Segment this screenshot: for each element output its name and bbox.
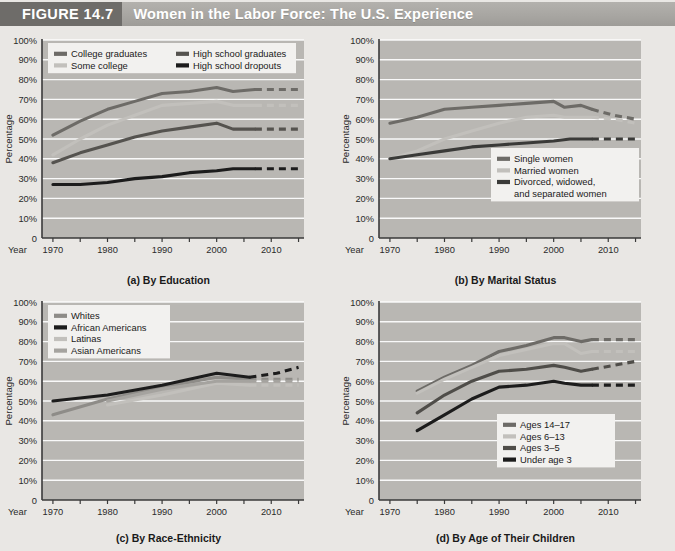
x-tick-label: 1990 — [489, 507, 510, 517]
chart-caption-b: (b) By Marital Status — [337, 274, 674, 286]
figure-title: Women in the Labor Force: The U.S. Exper… — [122, 6, 473, 22]
y-tick-label: 70% — [18, 95, 37, 105]
x-tick-label: 1980 — [97, 507, 118, 517]
legend-c: WhitesAfrican AmericansLatinasAsian Amer… — [48, 305, 170, 358]
y-tick-label: 60% — [355, 377, 374, 387]
x-tick-label: 2000 — [206, 507, 227, 517]
chart-caption-c: (c) By Race-Ethnicity — [0, 532, 337, 544]
y-tick-label: 30% — [18, 436, 37, 446]
y-tick-label: 50% — [355, 397, 374, 407]
y-tick-label: 80% — [355, 337, 374, 347]
legend-b: Single womenMarried womenDivorced, widow… — [491, 148, 639, 201]
legend-swatch — [497, 157, 510, 161]
legend-label: High school graduates — [193, 48, 287, 59]
legend-swatch — [54, 63, 67, 67]
y-tick-label: 50% — [18, 397, 37, 407]
legend-swatch — [54, 337, 67, 341]
legend-a: College graduatesHigh school graduatesSo… — [48, 43, 296, 73]
y-tick-label: 100% — [13, 36, 37, 46]
chart-panel-d: 100%90%80%70%60%50%40%30%20%10%019701980… — [337, 288, 674, 550]
y-tick-label: 100% — [13, 298, 37, 308]
figure-header: FIGURE 14.7 Women in the Labor Force: Th… — [0, 2, 675, 26]
legend-label: College graduates — [71, 48, 147, 59]
legend-swatch — [176, 52, 189, 56]
y-tick-label: 80% — [18, 337, 37, 347]
y-tick-label: 90% — [18, 317, 37, 327]
year-axis-label: Year — [8, 507, 27, 517]
chart-panel-b: 100%90%80%70%60%50%40%30%20%10%019701980… — [337, 26, 674, 288]
figure-panels: 100%90%80%70%60%50%40%30%20%10%019701980… — [0, 26, 675, 551]
x-tick-label: 1980 — [97, 245, 118, 255]
legend-swatch — [503, 434, 516, 438]
legend-swatch — [54, 349, 67, 353]
legend-label: Married women — [514, 165, 579, 176]
x-tick-label: 1970 — [380, 245, 401, 255]
x-tick-label: 2000 — [206, 245, 227, 255]
x-tick-label: 1990 — [152, 245, 173, 255]
chart-panel-c: 100%90%80%70%60%50%40%30%20%10%019701980… — [0, 288, 337, 550]
x-tick-label: 2010 — [598, 245, 619, 255]
x-tick-label: 1970 — [380, 507, 401, 517]
y-tick-label: 60% — [355, 115, 374, 125]
y-tick-label: 0 — [32, 496, 37, 506]
y-tick-label: 30% — [18, 174, 37, 184]
y-tick-label: 50% — [355, 135, 374, 145]
y-tick-label: 10% — [18, 214, 37, 224]
y-axis-title: Percentage — [3, 114, 14, 163]
y-tick-label: 10% — [355, 214, 374, 224]
legend-swatch — [503, 458, 516, 462]
y-tick-label: 50% — [18, 135, 37, 145]
x-tick-label: 2000 — [543, 245, 564, 255]
legend-label: Single women — [514, 153, 573, 164]
y-tick-label: 60% — [18, 377, 37, 387]
x-tick-label: 1990 — [489, 245, 510, 255]
legend-label: African Americans — [71, 322, 147, 333]
chart-svg-b: 100%90%80%70%60%50%40%30%20%10%019701980… — [337, 26, 674, 288]
y-tick-label: 60% — [18, 115, 37, 125]
legend-label: Latinas — [71, 333, 102, 344]
y-tick-label: 0 — [369, 496, 374, 506]
legend-label: Ages 14–17 — [520, 419, 570, 430]
chart-caption-a: (a) By Education — [0, 274, 337, 286]
year-axis-label: Year — [345, 245, 364, 255]
year-axis-label: Year — [345, 507, 364, 517]
y-axis-title: Percentage — [340, 114, 351, 163]
legend-d: Ages 14–17Ages 6–13Ages 3–5Under age 3 — [497, 414, 615, 467]
legend-label: Under age 3 — [520, 454, 572, 465]
year-axis-label: Year — [8, 245, 27, 255]
legend-swatch — [54, 52, 67, 56]
y-tick-label: 0 — [369, 234, 374, 244]
legend-label: Ages 6–13 — [520, 431, 565, 442]
legend-swatch — [503, 446, 516, 450]
y-tick-label: 90% — [355, 317, 374, 327]
y-tick-label: 40% — [18, 154, 37, 164]
legend-swatch — [54, 325, 67, 329]
legend-swatch — [497, 168, 510, 172]
x-tick-label: 2010 — [598, 507, 619, 517]
y-tick-label: 30% — [355, 174, 374, 184]
legend-label: Asian Americans — [71, 345, 141, 356]
y-tick-label: 80% — [18, 75, 37, 85]
y-tick-label: 20% — [18, 194, 37, 204]
y-tick-label: 40% — [355, 154, 374, 164]
y-tick-label: 100% — [350, 36, 374, 46]
y-tick-label: 0 — [32, 234, 37, 244]
figure-number: FIGURE 14.7 — [0, 2, 122, 26]
legend-label: Divorced, widowed, — [514, 176, 595, 187]
x-tick-label: 1990 — [152, 507, 173, 517]
y-tick-label: 20% — [355, 194, 374, 204]
y-tick-label: 40% — [18, 416, 37, 426]
legend-label: and separated women — [514, 188, 607, 199]
y-tick-label: 90% — [355, 55, 374, 65]
y-tick-label: 40% — [355, 416, 374, 426]
x-tick-label: 1970 — [43, 507, 64, 517]
legend-swatch — [176, 63, 189, 67]
x-tick-label: 2010 — [261, 245, 282, 255]
y-tick-label: 70% — [18, 357, 37, 367]
y-tick-label: 10% — [355, 476, 374, 486]
legend-label: Ages 3–5 — [520, 442, 560, 453]
legend-swatch — [503, 423, 516, 427]
y-tick-label: 20% — [18, 456, 37, 466]
y-tick-label: 70% — [355, 95, 374, 105]
x-tick-label: 1970 — [43, 245, 64, 255]
